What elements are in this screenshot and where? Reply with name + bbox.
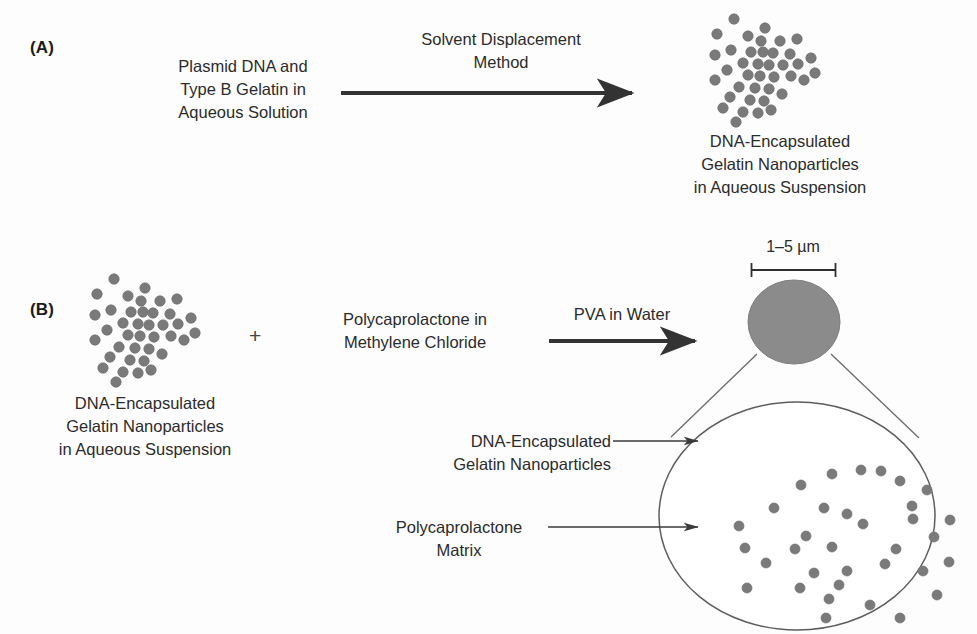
panel-a-product-text: DNA-Encapsulated Gelatin Nanoparticles i… <box>640 130 920 199</box>
nanoparticle-dot <box>90 310 100 320</box>
nanoparticle-dot <box>133 319 143 329</box>
nanoparticle-dot <box>144 320 154 330</box>
nanoparticle-dot <box>753 59 763 69</box>
nanoparticle-dot <box>738 107 748 117</box>
nanoparticle-dot <box>118 367 128 377</box>
nanoparticle-cluster-b <box>90 274 200 387</box>
nanoparticle-dot <box>118 318 128 328</box>
nanoparticle-dot <box>743 70 753 80</box>
encapsulated-nanoparticle-dot <box>944 557 954 567</box>
nanoparticle-dot <box>157 349 167 359</box>
encapsulated-nanoparticle-dot <box>795 583 805 593</box>
nanoparticle-dot <box>726 45 736 55</box>
nanoparticle-dot <box>738 58 748 68</box>
nanoparticle-dot <box>138 307 148 317</box>
encapsulated-nanoparticle-dot <box>790 544 800 554</box>
encapsulated-nanoparticle-dot <box>945 515 955 525</box>
nanoparticle-dot <box>133 368 143 378</box>
encapsulated-nanoparticle-dot <box>891 544 901 554</box>
nanoparticle-dot <box>130 343 140 353</box>
nanoparticle-dot <box>792 34 802 44</box>
nanoparticle-dot <box>144 344 154 354</box>
nanoparticle-dot <box>114 342 124 352</box>
encapsulated-nanoparticle-dot <box>769 503 779 513</box>
nanoparticle-dot <box>165 309 175 319</box>
nanoparticle-dot <box>753 108 763 118</box>
nanoparticle-dot <box>743 31 753 41</box>
nanoparticle-dot <box>111 377 121 387</box>
encapsulated-nanoparticle-dot <box>801 531 811 541</box>
nanoparticle-dot <box>764 60 774 70</box>
nanoparticle-dot <box>158 320 168 330</box>
nanoparticle-dot <box>92 289 102 299</box>
panel-a-reactant-text: Plasmid DNA and Type B Gelatin in Aqueou… <box>145 55 341 124</box>
panel-a-label: (A) <box>30 38 54 58</box>
nanoparticle-dot <box>123 291 133 301</box>
nanoparticle-dot <box>135 331 145 341</box>
nanoparticle-dot <box>764 84 774 94</box>
nanoparticle-dot <box>778 60 788 70</box>
encapsulated-nanoparticle-dot <box>842 509 852 519</box>
encapsulated-nanoparticle-dot <box>834 580 844 590</box>
encapsulated-nanoparticle-dot <box>932 590 942 600</box>
nanoparticle-dot <box>746 47 756 57</box>
microsphere-cross-section <box>659 402 935 630</box>
nanoparticle-dot <box>190 328 200 338</box>
nanoparticle-dot <box>750 83 760 93</box>
encapsulated-nanoparticle-dot <box>796 480 806 490</box>
encapsulated-nanoparticle-dot <box>907 501 917 511</box>
nanoparticle-dot <box>777 89 787 99</box>
nanoparticle-dot <box>793 59 803 69</box>
encapsulated-nanoparticle-dot <box>821 613 831 623</box>
encapsulated-nanoparticle-dot <box>734 521 744 531</box>
nanoparticle-dot <box>172 294 182 304</box>
encapsulated-nanoparticle-dot <box>827 469 837 479</box>
polycaprolactone-microsphere <box>748 280 840 364</box>
nanoparticle-dot <box>785 49 795 59</box>
panel-b-label: (B) <box>30 300 54 320</box>
encapsulated-nanoparticle-dot <box>880 559 890 569</box>
encapsulated-nanoparticle-dot <box>876 466 886 476</box>
nanoparticle-dot <box>90 335 100 345</box>
encapsulated-nanoparticles <box>734 465 955 623</box>
encapsulated-nanoparticle-dot <box>819 503 829 513</box>
encapsulated-nanoparticle-dot <box>740 543 750 553</box>
encapsulated-nanoparticle-dot <box>824 594 834 604</box>
nanoparticle-dot <box>734 82 744 92</box>
nanoparticle-dot <box>758 47 768 57</box>
nanoparticle-dot <box>136 296 146 306</box>
figure-root: (A) Plasmid DNA and Type B Gelatin in Aq… <box>0 0 977 634</box>
nanoparticle-dot <box>775 36 785 46</box>
encapsulated-nanoparticle-dot <box>908 514 918 524</box>
nanoparticle-dot <box>755 71 765 81</box>
scale-bar-label: 1–5 µm <box>738 238 848 256</box>
panel-b-reactant-text: DNA-Encapsulated Gelatin Nanoparticles i… <box>5 392 285 461</box>
nanoparticle-dot <box>173 319 183 329</box>
nanoparticle-dot <box>759 96 769 106</box>
nanoparticle-dot <box>756 36 766 46</box>
nanoparticle-dot <box>126 307 136 317</box>
encapsulated-nanoparticle-dot <box>809 568 819 578</box>
panel-a-arrow-label: Solvent Displacement Method <box>366 28 636 74</box>
encapsulated-nanoparticle-dot <box>865 600 875 610</box>
nanoparticle-dot <box>810 68 820 78</box>
encapsulated-nanoparticle-dot <box>895 613 905 623</box>
nanoparticle-dot <box>722 65 732 75</box>
nanoparticle-dot <box>146 365 156 375</box>
nanoparticle-dot <box>806 53 816 63</box>
nanoparticle-cluster-a <box>710 14 820 127</box>
magnify-line-left <box>671 354 757 437</box>
nanoparticle-dot <box>102 325 112 335</box>
nanoparticle-dot <box>155 296 165 306</box>
encapsulated-nanoparticle-dot <box>895 476 905 486</box>
panel-b-second-reactant-text: Polycaprolactone in Methylene Chloride <box>300 308 530 354</box>
nanoparticle-dot <box>123 330 133 340</box>
nanoparticle-dot <box>148 308 158 318</box>
nanoparticle-dot <box>179 335 189 345</box>
nanoparticle-dot <box>140 283 150 293</box>
nanoparticle-dot <box>139 356 149 366</box>
nanoparticle-dot <box>725 92 735 102</box>
nanoparticle-dot <box>760 23 770 33</box>
nanoparticle-dot <box>745 95 755 105</box>
panel-b-arrow-label: PVA in Water <box>543 303 701 326</box>
